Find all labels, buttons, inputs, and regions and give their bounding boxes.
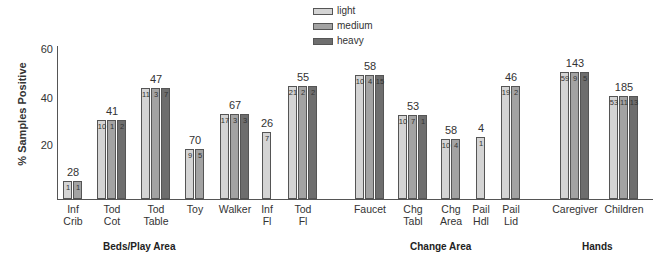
total-n-label: 53 (393, 100, 433, 112)
bar-heavy (375, 75, 384, 199)
bar-medium (298, 86, 307, 199)
total-n-label: 46 (491, 71, 531, 83)
y-tick-40: 40 (29, 92, 53, 104)
legend-swatch-light (313, 8, 333, 15)
legend-label: medium (337, 20, 373, 31)
bar-count-label: 1 (476, 139, 486, 148)
bar-light (288, 86, 297, 199)
bar-heavy (418, 115, 427, 199)
x-category-label: Caregiver (550, 203, 600, 215)
bar-count-label: 11 (619, 98, 629, 107)
total-n-label: 58 (350, 60, 390, 72)
bar-count-label: 15 (375, 77, 385, 86)
bar-light (220, 114, 229, 199)
group-label-hands: Hands (582, 241, 613, 252)
bar-count-label: 10 (441, 141, 451, 150)
bar-light (141, 88, 150, 199)
bar-count-label: 2 (308, 88, 318, 97)
bar-medium (408, 115, 417, 199)
bar-count-label: 7 (161, 90, 171, 99)
bar-count-label: 3 (230, 116, 240, 125)
bar-medium (151, 88, 160, 199)
legend-swatch-medium (313, 23, 333, 30)
group-label-beds: Beds/Play Area (103, 241, 175, 252)
x-category-label: Pail Lid (486, 203, 536, 227)
bar-count-label: 3 (151, 90, 161, 99)
bar-heavy (161, 88, 170, 199)
bar-count-label: 1 (73, 183, 83, 192)
bar-medium (107, 120, 116, 199)
bar-count-label: 59 (560, 74, 570, 83)
bar-heavy (629, 96, 638, 199)
bar-count-label: 2 (511, 88, 521, 97)
bar-count-label: 19 (501, 88, 511, 97)
y-tick-60: 60 (29, 43, 53, 55)
total-n-label: 143 (555, 57, 595, 69)
legend-label: light (337, 5, 355, 16)
bar-medium (511, 86, 520, 199)
legend-swatch-heavy (313, 38, 333, 45)
bar-count-label: 10 (97, 122, 107, 131)
bar-count-label: 11 (141, 90, 151, 99)
x-axis (57, 199, 653, 200)
bar-count-label: 7 (408, 117, 418, 126)
y-axis-label: % Samples Positive (16, 54, 28, 174)
bar-count-label: 2 (117, 122, 127, 131)
total-n-label: 70 (175, 134, 215, 146)
bar-count-label: 1 (63, 183, 73, 192)
bar-count-label: 1 (418, 117, 428, 126)
bar-medium (619, 96, 628, 199)
bar-count-label: 21 (288, 88, 298, 97)
bar-count-label: 10 (355, 77, 365, 86)
bar-light (398, 115, 407, 199)
total-n-label: 55 (283, 71, 323, 83)
y-tick-20: 20 (29, 139, 53, 151)
x-category-label: Children (599, 203, 649, 215)
bar-count-label: 2 (298, 88, 308, 97)
bar-heavy (117, 120, 126, 199)
bar-count-label: 7 (262, 134, 272, 143)
bar-count-label: 9 (570, 74, 580, 83)
total-n-label: 4 (461, 122, 501, 134)
bar-count-label: 17 (220, 116, 230, 125)
bar-medium (570, 72, 579, 199)
total-n-label: 67 (215, 99, 255, 111)
bar-light (501, 86, 510, 199)
bar-count-label: 53 (609, 98, 619, 107)
bar-light (97, 120, 106, 199)
bar-light (560, 72, 569, 199)
bar-count-label: 9 (185, 151, 195, 160)
bar-light (609, 96, 618, 199)
total-n-label: 28 (53, 166, 93, 178)
bar-count-label: 13 (629, 98, 639, 107)
legend-label: heavy (337, 35, 364, 46)
bar-count-label: 1 (107, 122, 117, 131)
bar-medium (230, 114, 239, 199)
bar-count-label: 10 (398, 117, 408, 126)
bar-heavy (308, 86, 317, 199)
total-n-label: 41 (92, 105, 132, 117)
bar-heavy (580, 72, 589, 199)
x-category-label: Tod Cot (87, 203, 137, 227)
bar-light (355, 75, 364, 199)
bar-count-label: 5 (195, 151, 205, 160)
total-n-label: 185 (604, 81, 644, 93)
bar-count-label: 4 (451, 141, 461, 150)
bar-count-label: 5 (580, 74, 590, 83)
x-category-label: Tod Fl (278, 203, 328, 227)
bar-medium (365, 75, 374, 199)
bar-count-label: 4 (365, 77, 375, 86)
total-n-label: 26 (247, 117, 287, 129)
total-n-label: 47 (136, 73, 176, 85)
group-label-change: Change Area (410, 241, 471, 252)
